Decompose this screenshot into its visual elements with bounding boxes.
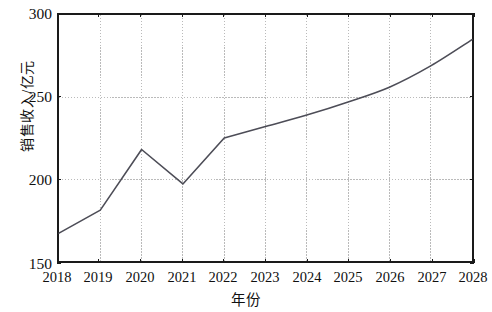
plot-area (57, 13, 474, 263)
x-axis-tick-label: 2028 (445, 270, 492, 285)
x-axis-title: 年份 (0, 288, 492, 309)
y-axis-title: 销售收入/亿元 (16, 36, 36, 176)
sales-revenue-line-chart: 300 250 200 150 2018 2019 2020 2021 2022… (0, 0, 492, 312)
data-series-line (59, 15, 472, 261)
y-axis-tick-label: 300 (0, 6, 52, 22)
